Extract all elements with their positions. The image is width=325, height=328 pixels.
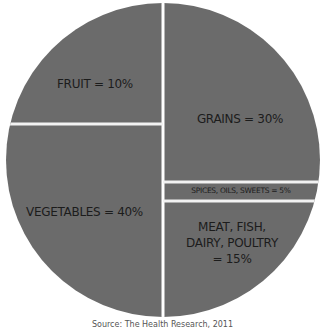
label-meat-line3: = 15%	[166, 252, 298, 266]
pie-chart	[0, 0, 325, 328]
slice-fruit	[0, 0, 163, 124]
slice-grains	[163, 0, 325, 182]
source-note: Source: The Health Research, 2011	[0, 320, 325, 328]
label-meat-line1: MEAT, FISH,	[166, 220, 298, 234]
label-fruit: FRUIT = 10%	[30, 77, 160, 91]
label-grains: GRAINS = 30%	[166, 112, 314, 126]
label-spices-oils-sweets: SPICES, OILS, SWEETS = 5%	[166, 186, 316, 195]
slice-vegetables	[0, 124, 163, 328]
label-vegetables: VEGETABLES = 40%	[6, 205, 163, 219]
label-meat-line2: DAIRY, POULTRY	[166, 236, 298, 250]
